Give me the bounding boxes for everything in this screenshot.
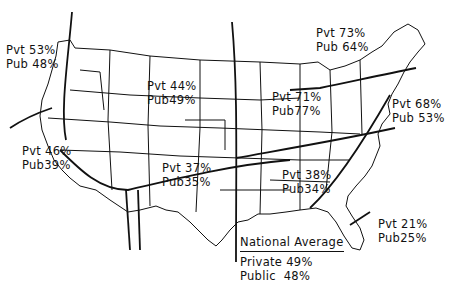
private-pct: Pvt 73% bbox=[316, 26, 369, 40]
national-public: Public 48% bbox=[240, 269, 344, 283]
us-outline bbox=[40, 24, 425, 250]
public-pct: Pub34% bbox=[282, 182, 332, 196]
public-pct: Pub35% bbox=[162, 175, 212, 189]
public-pct: Pub39% bbox=[22, 158, 72, 172]
boundary-florida bbox=[350, 212, 370, 225]
national-private: Private 49% bbox=[240, 255, 344, 269]
public-pct: Pub 64% bbox=[316, 40, 369, 54]
label-pacific-northwest: Pvt 53% Pub 48% bbox=[6, 43, 59, 71]
national-average-legend: National Average Private 49% Public 48% bbox=[240, 235, 344, 283]
label-mountain-north: Pvt 44% Pub49% bbox=[147, 79, 197, 107]
public-pct: Pub 48% bbox=[6, 57, 59, 71]
private-pct: Pvt 38% bbox=[282, 168, 332, 182]
private-pct: Pvt 46% bbox=[22, 144, 72, 158]
public-pct: Pub 53% bbox=[392, 111, 445, 125]
private-pct: Pvt 37% bbox=[162, 161, 212, 175]
label-northeast: Pvt 73% Pub 64% bbox=[316, 26, 369, 54]
public-pct: Pub77% bbox=[272, 104, 322, 118]
boundary-south bbox=[236, 128, 395, 158]
private-pct: Pvt 44% bbox=[147, 79, 197, 93]
label-southwest: Pvt 46% Pub39% bbox=[22, 144, 72, 172]
label-midwest: Pvt 71% Pub77% bbox=[272, 90, 322, 118]
label-southeast: Pvt 38% Pub34% bbox=[282, 168, 332, 196]
label-florida: Pvt 21% Pub25% bbox=[378, 217, 428, 245]
boundary-west-coast bbox=[10, 108, 52, 128]
private-pct: Pvt 21% bbox=[378, 217, 428, 231]
label-mid-atlantic: Pvt 68% Pub 53% bbox=[392, 97, 445, 125]
public-pct: Pub49% bbox=[147, 93, 197, 107]
boundary-sw-vert2 bbox=[138, 190, 140, 250]
boundary-sw-vert bbox=[126, 190, 130, 250]
public-pct: Pub25% bbox=[378, 231, 428, 245]
boundary-west bbox=[64, 12, 72, 140]
legend-title: National Average bbox=[240, 235, 344, 252]
private-pct: Pvt 71% bbox=[272, 90, 322, 104]
private-pct: Pvt 53% bbox=[6, 43, 59, 57]
label-south-central: Pvt 37% Pub35% bbox=[162, 161, 212, 189]
private-pct: Pvt 68% bbox=[392, 97, 445, 111]
boundary-midwest-north bbox=[290, 68, 416, 90]
